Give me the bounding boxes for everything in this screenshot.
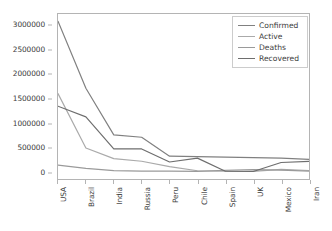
- y-tick-label: 2500000: [13, 46, 45, 53]
- legend-line-icon: [238, 47, 255, 48]
- y-tick-mark: [48, 74, 52, 75]
- y-tick-label: 2000000: [13, 71, 45, 78]
- legend-item-confirmed[interactable]: Confirmed: [236, 20, 304, 31]
- y-tick-mark: [48, 98, 52, 99]
- x-tick-mark: [169, 180, 170, 184]
- x-tick-mark: [85, 180, 86, 184]
- legend-label: Recovered: [259, 55, 299, 63]
- y-tick-mark: [48, 148, 52, 149]
- chart-legend: ConfirmedActiveDeathsRecovered: [232, 16, 308, 68]
- y-tick-mark: [48, 25, 52, 26]
- legend-line-icon: [238, 58, 255, 59]
- legend-item-recovered[interactable]: Recovered: [236, 53, 304, 64]
- y-tick-mark: [48, 172, 52, 173]
- x-tick-mark: [113, 180, 114, 184]
- x-tick-label: UK: [257, 187, 264, 197]
- legend-label: Confirmed: [259, 22, 298, 30]
- x-tick-label: USA: [60, 187, 67, 202]
- x-axis: USABrazilIndiaRussiaPeruChileSpainUKMexi…: [57, 180, 310, 231]
- x-tick-mark: [198, 180, 199, 184]
- y-tick-label: 1500000: [13, 95, 45, 102]
- y-tick-mark: [48, 123, 52, 124]
- y-tick-label: 0: [40, 169, 45, 176]
- y-tick-mark: [48, 49, 52, 50]
- x-tick-label: Russia: [144, 187, 151, 210]
- legend-item-active[interactable]: Active: [236, 31, 304, 42]
- series-line-recovered: [58, 106, 309, 171]
- legend-item-deaths[interactable]: Deaths: [236, 42, 304, 53]
- legend-line-icon: [238, 36, 255, 37]
- x-tick-mark: [310, 180, 311, 184]
- x-tick-mark: [57, 180, 58, 184]
- x-tick-label: Iran: [313, 187, 320, 201]
- chart-figure: 0500000100000015000002000000250000030000…: [0, 0, 332, 231]
- x-tick-label: Brazil: [88, 187, 95, 207]
- y-tick-label: 1000000: [13, 120, 45, 127]
- x-tick-mark: [282, 180, 283, 184]
- x-tick-label: Mexico: [285, 187, 292, 212]
- x-tick-mark: [226, 180, 227, 184]
- x-tick-label: Chile: [201, 187, 208, 205]
- y-tick-label: 3000000: [13, 22, 45, 29]
- x-tick-label: Peru: [172, 187, 179, 203]
- x-tick-label: Spain: [229, 187, 236, 207]
- legend-label: Deaths: [259, 44, 286, 52]
- y-axis: 0500000100000015000002000000250000030000…: [0, 13, 52, 180]
- x-tick-label: India: [116, 187, 123, 205]
- legend-label: Active: [259, 33, 283, 41]
- x-tick-mark: [141, 180, 142, 184]
- y-tick-label: 500000: [17, 144, 45, 151]
- legend-line-icon: [238, 25, 255, 26]
- x-tick-mark: [254, 180, 255, 184]
